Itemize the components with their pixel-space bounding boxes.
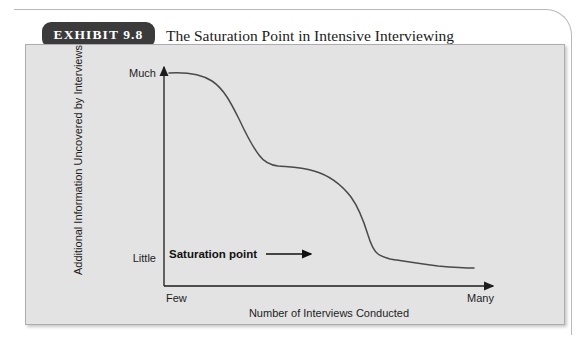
saturation-curve-path — [169, 73, 474, 268]
saturation-curve-chart: Much Little Additional Information Uncov… — [26, 45, 565, 325]
saturation-point-label: Saturation point — [169, 248, 257, 260]
x-axis-right-label: Many — [467, 292, 494, 304]
x-axis-left-label: Few — [166, 292, 187, 304]
x-axis-title: Number of Interviews Conducted — [249, 307, 409, 319]
y-axis-bottom-label: Little — [133, 252, 156, 264]
y-axis-title: Additional Information Uncovered by Inte… — [72, 45, 84, 275]
exhibit-badge-label: EXHIBIT 9.8 — [54, 27, 144, 43]
y-axis-top-label: Much — [129, 67, 156, 79]
exhibit-figure-root: EXHIBIT 9.8 The Saturation Point in Inte… — [0, 0, 588, 344]
figure-panel: Much Little Additional Information Uncov… — [25, 44, 565, 325]
